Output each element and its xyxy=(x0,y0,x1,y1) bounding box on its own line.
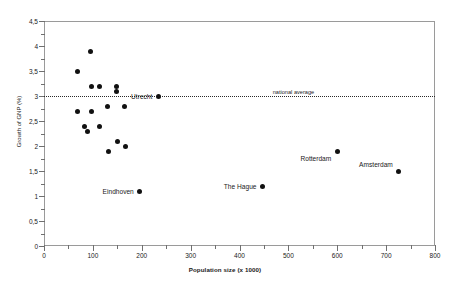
y-minor-tick xyxy=(41,134,45,135)
x-tick-label: 400 xyxy=(223,252,257,259)
y-minor-tick xyxy=(41,234,45,235)
data-point xyxy=(75,69,80,74)
x-tick-600 xyxy=(337,245,338,251)
x-tick-100 xyxy=(93,245,94,251)
x-minor-tick xyxy=(411,245,412,249)
x-tick-label: 300 xyxy=(174,252,208,259)
x-tick-0 xyxy=(44,245,45,251)
data-point xyxy=(97,124,102,129)
x-minor-tick xyxy=(117,245,118,249)
y-tick-1-5 xyxy=(39,171,45,172)
x-minor-tick xyxy=(166,245,167,249)
y-axis-title: Growth of GNP (%) xyxy=(16,62,23,182)
y-tick-1 xyxy=(39,196,45,197)
x-tick-label: 0 xyxy=(27,252,61,259)
y-tick-0-5 xyxy=(39,221,45,222)
y-tick-2-5 xyxy=(39,121,45,122)
x-tick-label: 700 xyxy=(369,252,403,259)
data-point xyxy=(106,149,111,154)
y-minor-tick xyxy=(41,184,45,185)
y-minor-tick xyxy=(41,59,45,60)
annotation-eindhoven: Eindhoven xyxy=(103,188,134,196)
x-tick-label: 600 xyxy=(320,252,354,259)
annotation-the-hague: The Hague xyxy=(224,183,257,191)
y-tick-label: 0 xyxy=(12,243,38,250)
x-tick-label: 800 xyxy=(418,252,450,259)
data-point-amsterdam xyxy=(396,169,401,174)
national-average-line xyxy=(44,96,435,97)
data-point xyxy=(105,104,110,109)
x-tick-400 xyxy=(240,245,241,251)
x-tick-label: 200 xyxy=(125,252,159,259)
x-tick-200 xyxy=(142,245,143,251)
x-tick-label: 500 xyxy=(271,252,305,259)
x-tick-500 xyxy=(288,245,289,251)
y-minor-tick xyxy=(41,84,45,85)
y-tick-3-5 xyxy=(39,71,45,72)
national-average-label: national average xyxy=(273,89,314,96)
y-minor-tick xyxy=(41,209,45,210)
y-tick-label: 4,5 xyxy=(12,18,38,25)
x-axis-title: Population size (x 1000) xyxy=(0,266,450,274)
y-tick-label: 0,5 xyxy=(12,218,38,225)
y-minor-tick xyxy=(41,109,45,110)
x-minor-tick xyxy=(313,245,314,249)
annotation-utrecht: Utrecht xyxy=(131,93,152,101)
y-tick-label: 4 xyxy=(12,43,38,50)
data-point xyxy=(75,109,80,114)
data-point xyxy=(89,109,94,114)
data-point-rotterdam xyxy=(335,149,340,154)
y-tick-4 xyxy=(39,46,45,47)
data-point xyxy=(88,49,93,54)
data-point xyxy=(82,124,87,129)
x-tick-700 xyxy=(386,245,387,251)
x-minor-tick xyxy=(362,245,363,249)
x-minor-tick xyxy=(264,245,265,249)
data-point xyxy=(115,139,120,144)
data-point xyxy=(114,84,119,89)
annotation-rotterdam: Rotterdam xyxy=(300,155,331,163)
x-tick-300 xyxy=(191,245,192,251)
plot-area xyxy=(44,21,435,246)
annotation-amsterdam: Amsterdam xyxy=(359,161,393,169)
data-point xyxy=(89,84,94,89)
x-minor-tick xyxy=(215,245,216,249)
data-point xyxy=(122,104,127,109)
x-minor-tick xyxy=(68,245,69,249)
data-point-eindhoven xyxy=(137,189,142,194)
y-minor-tick xyxy=(41,34,45,35)
data-point xyxy=(97,84,102,89)
y-tick-2 xyxy=(39,146,45,147)
data-point xyxy=(123,144,128,149)
data-point-utrecht xyxy=(156,94,161,99)
x-tick-label: 100 xyxy=(76,252,110,259)
y-tick-4-5 xyxy=(39,21,45,22)
y-tick-label: 1 xyxy=(12,193,38,200)
x-tick-800 xyxy=(435,245,436,251)
y-minor-tick xyxy=(41,159,45,160)
data-point xyxy=(114,89,119,94)
scatter-plot-figure: 00,511,522,533,544,5 0100200300400500600… xyxy=(0,0,450,285)
data-point-the-hague xyxy=(260,184,265,189)
